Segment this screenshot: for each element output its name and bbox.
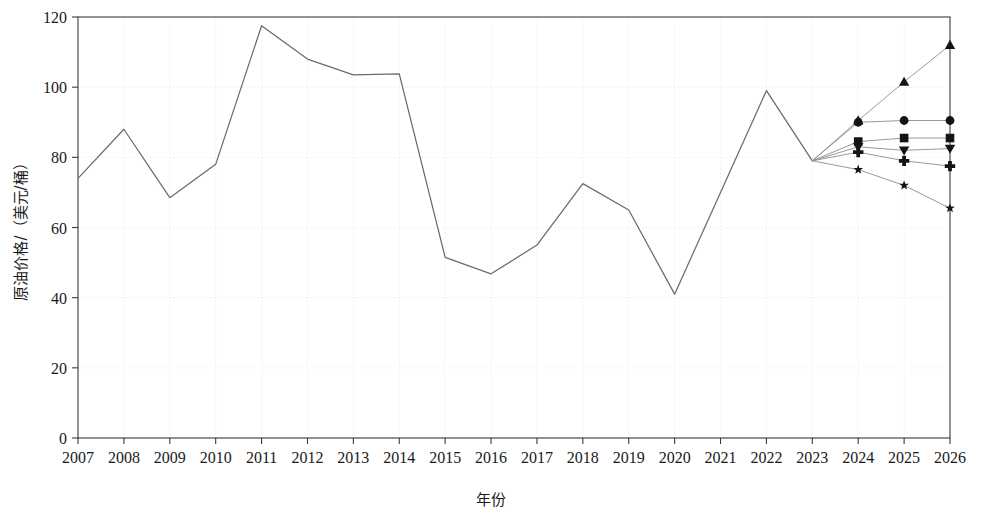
square-marker: [946, 134, 955, 143]
chart-canvas: 2007200820092010201120122013201420152016…: [0, 0, 983, 515]
x-tick-label: 2013: [337, 449, 369, 466]
x-tick-label: 2012: [291, 449, 323, 466]
x-tick-label: 2021: [705, 449, 737, 466]
circle-marker: [900, 116, 909, 125]
y-axis-tick-labels: 020406080100120: [43, 9, 67, 447]
square-marker: [900, 134, 909, 143]
x-tick-label: 2016: [475, 449, 507, 466]
circle-marker: [854, 118, 863, 127]
triangle-up-marker: [945, 40, 955, 49]
grid-lines: [78, 17, 950, 438]
data-series: [78, 26, 950, 294]
crude-oil-price-chart: 2007200820092010201120122013201420152016…: [0, 0, 983, 515]
axis-ticks: [72, 17, 950, 444]
plus-marker: [853, 147, 863, 157]
y-tick-label: 120: [43, 9, 67, 26]
forecast-line-6: [812, 161, 950, 208]
y-tick-label: 0: [59, 430, 67, 447]
x-tick-label: 2009: [154, 449, 186, 466]
x-tick-label: 2020: [659, 449, 691, 466]
x-tick-label: 2024: [842, 449, 874, 466]
x-tick-label: 2025: [888, 449, 920, 466]
star-marker: [853, 165, 863, 174]
x-tick-label: 2019: [613, 449, 645, 466]
triangle-down-marker: [899, 146, 909, 155]
x-tick-label: 2023: [796, 449, 828, 466]
plus-marker: [899, 156, 909, 166]
x-tick-label: 2017: [521, 449, 553, 466]
y-tick-label: 40: [51, 290, 67, 307]
y-tick-label: 80: [51, 149, 67, 166]
circle-marker: [946, 116, 955, 125]
x-tick-label: 2015: [429, 449, 461, 466]
x-tick-label: 2007: [62, 449, 94, 466]
y-tick-label: 20: [51, 360, 67, 377]
star-marker: [899, 180, 909, 189]
x-tick-label: 2008: [108, 449, 140, 466]
x-tick-label: 2014: [383, 449, 415, 466]
y-tick-label: 100: [43, 79, 67, 96]
triangle-up-marker: [899, 77, 909, 86]
x-tick-label: 2018: [567, 449, 599, 466]
triangle-down-marker: [945, 145, 955, 154]
x-tick-label: 2010: [200, 449, 232, 466]
y-axis-title: 原油价格/（美元/桶）: [12, 155, 30, 300]
y-tick-label: 60: [51, 220, 67, 237]
x-tick-label: 2026: [934, 449, 966, 466]
x-tick-label: 2011: [246, 449, 277, 466]
forecast-line-4: [812, 147, 950, 161]
x-axis-tick-labels: 2007200820092010201120122013201420152016…: [62, 449, 966, 466]
plus-marker: [945, 161, 955, 171]
x-tick-label: 2022: [750, 449, 782, 466]
x-axis-title: 年份: [476, 491, 506, 509]
